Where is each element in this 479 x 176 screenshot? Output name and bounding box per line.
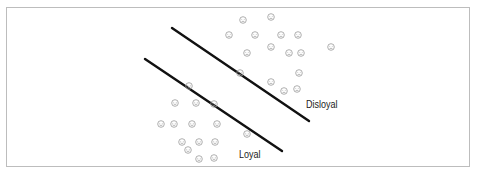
face-icon <box>294 86 301 93</box>
loyal-label: Loyal <box>239 148 261 160</box>
face-icon <box>189 121 196 128</box>
face-icon <box>328 44 335 51</box>
face-icon <box>171 121 178 128</box>
face-icon <box>268 14 275 21</box>
face-icon <box>196 156 203 163</box>
face-icon <box>298 50 305 57</box>
boundary-lines <box>145 28 309 151</box>
face-icon <box>172 100 179 107</box>
face-icon <box>252 32 259 39</box>
face-icon <box>211 155 218 162</box>
face-icon <box>240 17 247 24</box>
face-icon <box>179 139 186 146</box>
face-icon <box>281 88 288 95</box>
face-icon <box>196 139 203 146</box>
face-icon <box>295 32 302 39</box>
face-icon <box>185 147 192 154</box>
face-icon <box>244 50 251 57</box>
face-icon <box>268 79 275 86</box>
face-icon <box>214 121 221 128</box>
face-icon <box>268 44 275 51</box>
face-icon <box>212 139 219 146</box>
loyal-group <box>158 83 251 163</box>
face-icon <box>244 131 251 138</box>
face-icon <box>296 70 303 77</box>
disloyal-group <box>226 14 335 95</box>
face-icon <box>286 50 293 57</box>
face-icon <box>226 32 233 39</box>
lower-boundary-line <box>145 59 282 151</box>
face-icon <box>278 32 285 39</box>
face-icon <box>193 100 200 107</box>
face-icon <box>158 121 165 128</box>
disloyal-label: Disloyal <box>306 98 338 110</box>
